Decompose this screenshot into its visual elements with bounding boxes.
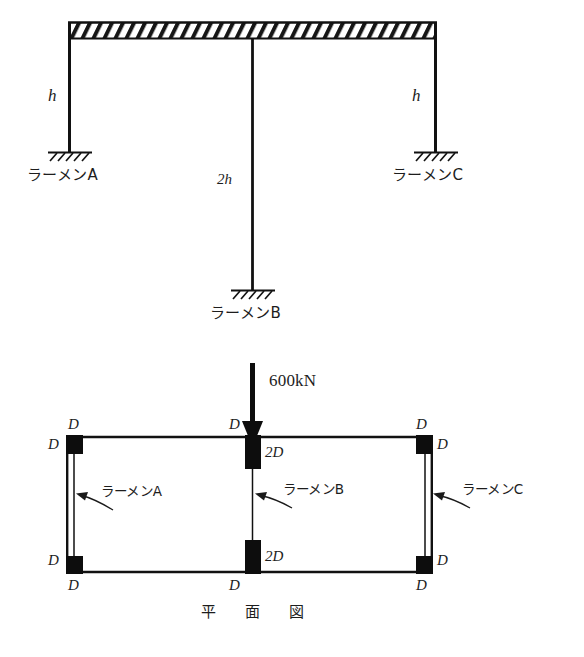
plan-mark-top-left-inner: D [48,437,59,452]
plan-view [66,363,470,574]
plan-column-top-right [416,435,433,454]
plan-mark-bottom-mid-inner: 2D [265,549,283,564]
support-fixed-b [231,291,275,300]
plan-column-top-left [66,435,83,454]
elevation-height-label-middle: 2h [217,172,232,187]
plan-mark-top-mid-inner: 2D [265,445,283,460]
plan-mark-top-right-outer: D [416,417,427,432]
plan-frame-label-c: ラーメンC [462,483,523,497]
figure-root: h 2h h ラーメンA ラーメンB ラーメンC 600kN D D D 2D … [0,0,584,657]
plan-load-label: 600kN [269,372,316,389]
elevation-height-label-left: h [48,87,57,104]
elevation-beam [60,22,445,39]
plan-mark-bottom-left-outer: D [68,578,79,593]
plan-mark-bottom-right-inner: D [437,553,448,568]
elevation-frame-label-c: ラーメンC [392,168,463,183]
plan-column-bottom-left [66,556,83,574]
plan-column-bottom-right [416,556,433,574]
support-fixed-c [414,153,458,162]
plan-mark-bottom-mid-outer: D [229,578,240,593]
plan-frame-label-b: ラーメンB [283,483,344,497]
plan-mark-bottom-left-inner: D [48,553,59,568]
plan-column-bottom-middle [245,540,261,574]
plan-mark-top-mid-outer: D [229,417,240,432]
plan-frame-label-a: ラーメンA [101,485,162,499]
elevation-view [48,22,458,299]
plan-column-top-middle [245,435,261,469]
plan-mark-top-right-inner: D [437,437,448,452]
plan-mark-bottom-right-outer: D [416,578,427,593]
plan-caption: 平 面 図 [201,605,311,620]
support-fixed-a [48,153,92,162]
structural-diagram-svg [0,0,584,657]
elevation-frame-label-b: ラーメンB [210,306,281,321]
plan-mark-top-left-outer: D [68,417,79,432]
load-arrow-down [242,363,263,447]
elevation-frame-label-a: ラーメンA [27,168,98,183]
elevation-height-label-right: h [412,87,421,104]
